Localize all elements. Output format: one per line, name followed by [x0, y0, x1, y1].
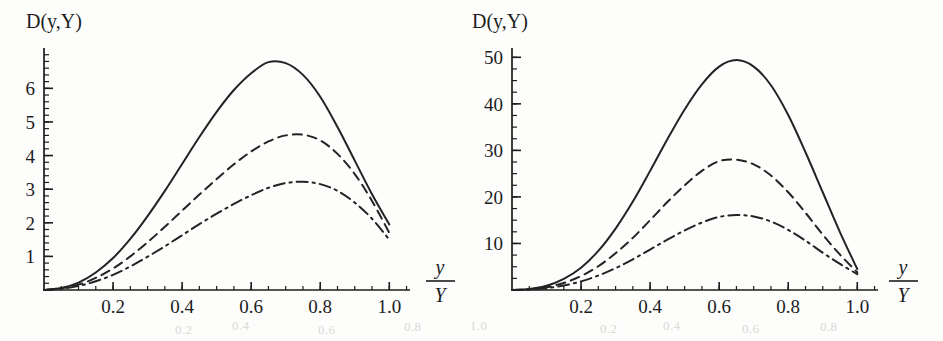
axes-left: 0.20.40.60.81.0123456 — [26, 48, 411, 317]
figure-container: 0.20.40.60.81.00.20.40.60.8 0.20.40.60.8… — [0, 0, 943, 341]
x-tick-label-left-1: 0.4 — [170, 296, 194, 317]
y-tick-label-left-0: 1 — [26, 246, 36, 267]
chart-panel-right: 0.20.40.60.81.01020304050 D(y,Y) y Y — [463, 0, 934, 341]
y-tick-label-right-0: 10 — [484, 233, 503, 254]
x-tick-label-left-2: 0.6 — [239, 296, 263, 317]
x-axis-label-denominator-left: Y — [434, 284, 447, 306]
y-tick-label-left-3: 4 — [26, 146, 36, 167]
y-tick-label-right-2: 30 — [484, 140, 503, 161]
y-axis-title-right: D(y,Y) — [472, 10, 528, 33]
x-tick-label-left-4: 1.0 — [377, 296, 401, 317]
curve-dash-dot-left — [44, 182, 389, 290]
x-tick-label-right-1: 0.4 — [638, 296, 662, 317]
curves-right — [512, 60, 857, 290]
x-tick-label-right-4: 1.0 — [845, 296, 869, 317]
curve-solid-right — [512, 60, 857, 290]
y-tick-label-right-1: 20 — [484, 187, 503, 208]
x-axis-label-numerator-left: y — [434, 256, 445, 279]
chart-panel-left: 0.20.40.60.81.0123456 D(y,Y) y Y — [0, 0, 471, 341]
labels-right: D(y,Y) y Y — [472, 10, 918, 306]
curve-dashed-right — [512, 159, 857, 290]
x-axis-label-denominator-right: Y — [897, 284, 910, 306]
x-tick-label-right-2: 0.6 — [707, 296, 731, 317]
curve-dashed-left — [44, 134, 389, 290]
y-tick-label-right-3: 40 — [484, 94, 503, 115]
y-tick-label-right-4: 50 — [484, 47, 503, 68]
y-axis-title-left: D(y,Y) — [26, 10, 82, 33]
x-tick-label-right-3: 0.8 — [776, 296, 800, 317]
curve-solid-left — [44, 61, 389, 290]
x-axis-label-numerator-right: y — [897, 256, 908, 279]
y-tick-label-left-2: 3 — [26, 179, 36, 200]
x-tick-label-right-0: 0.2 — [569, 296, 593, 317]
x-tick-label-left-0: 0.2 — [101, 296, 125, 317]
plot-svg-right: 0.20.40.60.81.01020304050 D(y,Y) y Y — [463, 0, 934, 341]
y-tick-label-left-4: 5 — [26, 112, 36, 133]
curves-left — [44, 61, 389, 290]
x-tick-label-left-3: 0.8 — [308, 296, 332, 317]
y-tick-label-left-5: 6 — [26, 78, 36, 99]
y-tick-label-left-1: 2 — [26, 213, 36, 234]
plot-svg-left: 0.20.40.60.81.0123456 D(y,Y) y Y — [0, 0, 471, 341]
